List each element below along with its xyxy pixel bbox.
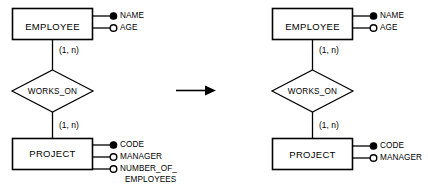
key-attribute-dot-icon: [110, 13, 117, 20]
attributes-project-before: CODE MANAGER NUMBER_OF_ EMPLOYEES: [93, 140, 178, 184]
diagram-after: EMPLOYEE NAME AGE (1, n) WORKS_ON (1,: [272, 9, 422, 170]
key-attribute-dot-icon: [370, 143, 377, 150]
attribute-label: AGE: [380, 23, 398, 32]
attribute-label-wrap: EMPLOYEES: [125, 175, 177, 184]
attribute-label: CODE: [380, 141, 404, 150]
key-attribute-dot-icon: [110, 142, 117, 149]
attribute-circle-icon: [370, 155, 377, 162]
relationship-works-on-before[interactable]: WORKS_ON: [12, 70, 93, 112]
attributes-employee-before: NAME AGE: [93, 11, 145, 32]
relationship-label: WORKS_ON: [28, 87, 77, 96]
attribute-label: NAME: [120, 11, 144, 20]
entity-employee-before[interactable]: EMPLOYEE: [13, 9, 93, 40]
attribute-label: MANAGER: [120, 152, 162, 161]
attribute-circle-icon: [110, 166, 117, 173]
entity-employee-after[interactable]: EMPLOYEE: [273, 9, 353, 40]
attribute-circle-icon: [110, 25, 117, 32]
attribute-circle-icon: [370, 25, 377, 32]
attribute-label: CODE: [120, 140, 144, 149]
entity-label: EMPLOYEE: [285, 21, 340, 32]
attribute-label: NAME: [380, 11, 404, 20]
entity-label: PROJECT: [289, 149, 335, 160]
attribute-label: NUMBER_OF_: [120, 164, 177, 173]
cardinality-upper: (1, n): [319, 45, 339, 55]
attributes-employee-after: NAME AGE: [353, 11, 405, 32]
attribute-label: MANAGER: [380, 153, 422, 162]
attribute-circle-icon: [110, 154, 117, 161]
relationship-works-on-after[interactable]: WORKS_ON: [272, 70, 353, 112]
key-attribute-dot-icon: [370, 13, 377, 20]
entity-label: EMPLOYEE: [25, 21, 80, 32]
entity-label: PROJECT: [29, 148, 75, 159]
cardinality-lower: (1, n): [59, 120, 79, 130]
cardinality-lower: (1, n): [319, 120, 339, 130]
attributes-project-after: CODE MANAGER: [353, 141, 423, 162]
er-diagram-figure: EMPLOYEE NAME AGE (1, n) WORKS_ON (1,: [0, 0, 428, 190]
relationship-label: WORKS_ON: [288, 87, 337, 96]
attribute-label: AGE: [120, 23, 138, 32]
entity-project-before[interactable]: PROJECT: [13, 139, 93, 170]
diagram-before: EMPLOYEE NAME AGE (1, n) WORKS_ON (1,: [12, 9, 177, 185]
transform-arrow-icon: [176, 86, 216, 96]
cardinality-upper: (1, n): [59, 45, 79, 55]
entity-project-after[interactable]: PROJECT: [273, 139, 353, 170]
